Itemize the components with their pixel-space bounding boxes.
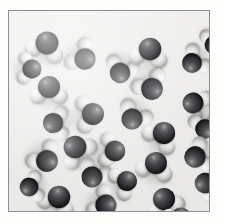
oxygen-atom	[38, 76, 60, 98]
illustration-panel	[8, 10, 210, 212]
molecule-layer	[9, 11, 209, 211]
figure-root: Space-filling model of liquid water: man…	[0, 0, 225, 224]
oxygen-atom	[192, 170, 210, 196]
